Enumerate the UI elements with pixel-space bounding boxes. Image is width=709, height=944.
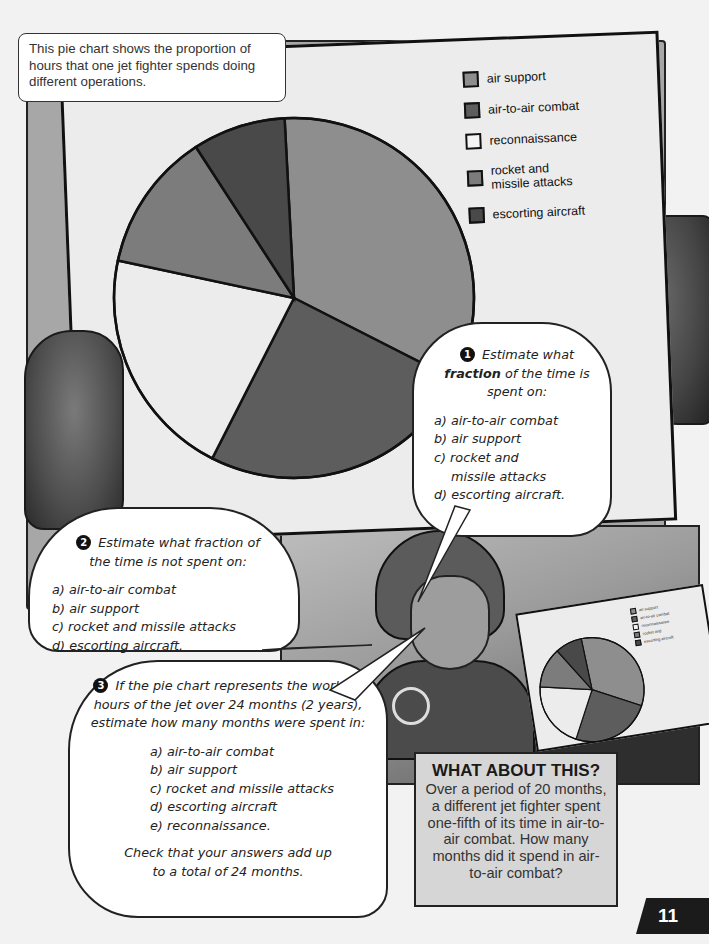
small-chart-legend: air support air-to-air combat reconnaiss… — [630, 602, 674, 648]
mini-swatch — [635, 639, 642, 646]
workbook-page: air support air-to-air combat reconnaiss… — [0, 0, 709, 944]
legend-item-rocket-missile: rocket and missile attacks — [466, 157, 637, 192]
small-pie-chart-sheet: air support air-to-air combat reconnaiss… — [515, 584, 709, 752]
question-3-heading: 3 If the pie chart represents the workin… — [82, 677, 374, 733]
swatch-escorting-aircraft — [468, 207, 485, 224]
q2-item: a) air-to-air combat — [52, 581, 284, 600]
swatch-reconnaissance — [465, 133, 482, 150]
number-badge-icon: 2 — [76, 535, 91, 550]
legend-item-air-to-air-combat: air-to-air combat — [464, 95, 635, 118]
mini-swatch — [631, 616, 638, 623]
q2-head: Estimate what fraction of the time is no… — [89, 535, 260, 569]
swatch-air-support — [462, 71, 479, 88]
legend-item-reconnaissance: reconnaissance — [465, 126, 636, 149]
what-about-this-title: WHAT ABOUT THIS? — [424, 762, 608, 780]
swatch-rocket-missile — [467, 170, 484, 187]
question-2-bubble: 2 Estimate what fraction of the time is … — [28, 507, 300, 652]
legend-label-line2: missile attacks — [491, 174, 573, 192]
q3-head: If the pie chart represents the working … — [91, 678, 366, 730]
question-1-list: a) air-to-air combat b) air support c) r… — [434, 412, 600, 505]
what-about-this-box: WHAT ABOUT THIS? Over a period of 20 mon… — [414, 752, 618, 907]
legend-label: air-to-air combat — [488, 99, 580, 117]
q3-item: e) reconnaissance. — [150, 817, 374, 836]
q3-item: a) air-to-air combat — [150, 743, 374, 762]
q3-item: d) escorting aircraft — [150, 798, 374, 817]
question-3-list: a) air-to-air combat b) air support c) r… — [82, 743, 374, 836]
mini-swatch — [632, 624, 639, 631]
q1-item: d) escorting aircraft. — [434, 486, 600, 505]
pilot-face — [410, 575, 490, 670]
emblem-icon — [392, 687, 430, 725]
q3-item: c) rocket and missile attacks — [150, 780, 374, 799]
legend-label: air support — [486, 69, 546, 86]
q1-item: b) air support — [434, 430, 600, 449]
q3-item: b) air support — [150, 761, 374, 780]
legend-label: escorting aircraft — [492, 204, 585, 222]
question-2-list: a) air-to-air combat b) air support c) r… — [52, 581, 284, 655]
question-3-bubble: 3 If the pie chart represents the workin… — [68, 660, 388, 918]
question-1-heading: 1 Estimate what fraction of the time is … — [434, 346, 600, 402]
q1-head-bold: fraction — [444, 366, 501, 381]
q1-head-pre: Estimate what — [482, 347, 574, 362]
q1-item: missile attacks — [434, 468, 600, 487]
q2-item: b) air support — [52, 600, 284, 619]
mini-swatch — [634, 631, 641, 638]
q3-footer: Check that your answers add up to a tota… — [82, 844, 374, 881]
question-1-bubble: 1 Estimate what fraction of the time is … — [412, 322, 612, 537]
intro-caption: This pie chart shows the proportion of h… — [18, 33, 286, 102]
number-badge-icon: 3 — [93, 678, 108, 693]
question-2-heading: 2 Estimate what fraction of the time is … — [52, 534, 284, 571]
legend-label: reconnaissance — [489, 130, 577, 148]
q1-item: c) rocket and — [434, 449, 600, 468]
q2-item: c) rocket and missile attacks — [52, 618, 284, 637]
q1-head-post: of the time is spent on: — [487, 366, 590, 400]
number-badge-icon: 1 — [460, 347, 475, 362]
chart-legend: air support air-to-air combat reconnaiss… — [462, 64, 639, 238]
mini-swatch — [630, 608, 637, 615]
q1-item: a) air-to-air combat — [434, 412, 600, 431]
what-about-this-body: Over a period of 20 months, a different … — [424, 781, 608, 882]
swatch-air-to-air-combat — [464, 102, 481, 119]
legend-item-escorting-aircraft: escorting aircraft — [468, 200, 639, 223]
flight-suit — [365, 660, 535, 760]
q2-item: d) escorting aircraft. — [52, 637, 284, 656]
small-pie-chart — [518, 586, 709, 754]
legend-label: rocket and missile attacks — [490, 160, 572, 192]
